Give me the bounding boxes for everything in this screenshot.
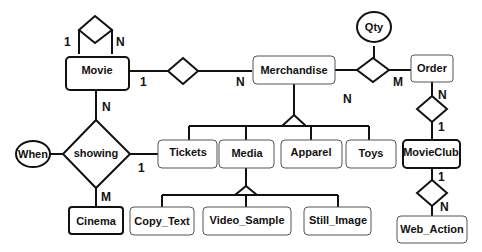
cardinality-movie-merch-movie: 1 bbox=[140, 75, 147, 89]
media-isa-triangle bbox=[235, 186, 257, 195]
when-label: When bbox=[18, 148, 48, 160]
er-diagram: Movie Merchandise Order Cinema Tickets M… bbox=[0, 0, 482, 252]
entity-still-image-label: Still_Image bbox=[309, 214, 367, 226]
cardinality-showing-cinema: M bbox=[101, 190, 111, 204]
cardinality-movie-self-right: N bbox=[116, 35, 125, 49]
cardinality-club-web-club: 1 bbox=[438, 170, 445, 184]
cardinality-movie-merch-merch: N bbox=[236, 75, 245, 89]
cardinality-movie-showing: N bbox=[102, 100, 111, 114]
cardinality-merch-order-merch: N bbox=[343, 92, 352, 106]
entity-tickets-label: Tickets bbox=[169, 146, 207, 158]
qty-label: Qty bbox=[365, 21, 384, 33]
cardinality-showing-tickets: 1 bbox=[138, 161, 145, 175]
movie-merchandise-relationship[interactable] bbox=[168, 58, 198, 84]
merchandise-isa-triangle bbox=[282, 115, 306, 126]
entity-movie-label: Movie bbox=[81, 64, 112, 76]
entity-copy-text-label: Copy_Text bbox=[134, 215, 190, 227]
entity-apparel-label: Apparel bbox=[291, 146, 332, 158]
cardinality-club-web-web: N bbox=[440, 200, 449, 214]
entity-cinema-label: Cinema bbox=[76, 215, 117, 227]
cardinality-movie-self-left: 1 bbox=[64, 35, 71, 49]
merchandise-order-relationship[interactable] bbox=[357, 58, 389, 82]
entity-web-action-label: Web_Action bbox=[400, 223, 464, 235]
movie-self-relationship[interactable] bbox=[79, 16, 112, 43]
cardinality-merch-order-order: M bbox=[393, 75, 403, 89]
entity-merchandise-label: Merchandise bbox=[260, 64, 327, 76]
entity-video-sample-label: Video_Sample bbox=[210, 214, 285, 226]
cardinality-order-movieclub-order: N bbox=[438, 88, 447, 102]
showing-label: showing bbox=[74, 147, 119, 159]
entity-toys-label: Toys bbox=[359, 147, 384, 159]
cardinality-order-movieclub-club: 1 bbox=[438, 120, 445, 134]
entity-movieclub-label: MovieClub bbox=[403, 146, 459, 158]
entity-media-label: Media bbox=[231, 147, 263, 159]
entity-order-label: Order bbox=[417, 62, 448, 74]
